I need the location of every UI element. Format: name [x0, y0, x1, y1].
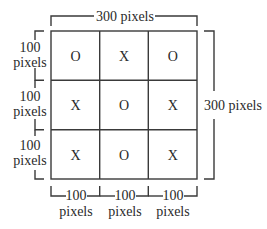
row-1-unit: pixels: [13, 55, 46, 70]
col-3-value: 100: [163, 188, 184, 203]
top-dimension-label: 300 pixels: [96, 9, 154, 24]
right-bracket-top: [204, 31, 214, 91]
row-3-unit: pixels: [13, 153, 46, 168]
left-bracket-row2-bottom: [35, 119, 44, 130]
top-bracket-left: [51, 16, 94, 26]
row-3-value: 100: [20, 138, 41, 153]
col-2-unit: pixels: [108, 204, 141, 219]
cell-r1c1: O: [70, 49, 80, 64]
right-dimension-label: 300 pixels: [204, 98, 262, 113]
bottom-bracket-col2-right: [136, 186, 148, 196]
grid-diagram: 300 pixels 300 pixels 100 pixels 100 pix…: [0, 0, 267, 229]
row-1-value: 100: [20, 40, 41, 55]
col-3-unit: pixels: [156, 204, 189, 219]
cell-r2c3: X: [168, 98, 178, 113]
bottom-bracket-col1-right: [87, 186, 100, 196]
cell-r2c2: O: [119, 98, 129, 113]
bottom-bracket-col1-left: [51, 186, 66, 196]
cell-r3c3: X: [168, 148, 178, 163]
left-bracket-row1-top: [35, 31, 44, 40]
cell-r1c2: X: [119, 49, 129, 64]
left-bracket-row3-bottom: [35, 170, 44, 179]
bottom-bracket-col3-right: [184, 186, 197, 196]
col-1-unit: pixels: [59, 204, 92, 219]
col-1-value: 100: [66, 188, 87, 203]
col-2-value: 100: [115, 188, 136, 203]
right-bracket-bottom: [204, 119, 214, 179]
cell-r2c1: X: [70, 98, 80, 113]
cell-r3c1: X: [70, 148, 80, 163]
cell-r3c2: O: [119, 148, 129, 163]
row-2-value: 100: [20, 89, 41, 104]
row-2-unit: pixels: [13, 104, 46, 119]
cell-r1c3: O: [168, 49, 178, 64]
top-bracket-right: [155, 16, 197, 26]
